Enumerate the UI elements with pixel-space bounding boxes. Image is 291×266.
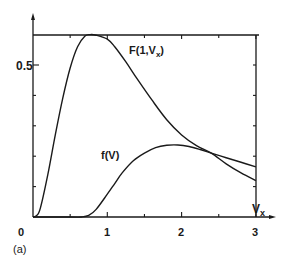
x-axis-label-sub: x <box>260 208 265 218</box>
series-label-f: f(V) <box>101 149 120 161</box>
series-label-F-base: F(1,V <box>129 44 157 56</box>
series-label-F-close: ) <box>160 44 164 56</box>
x-tick-label-0: 0 <box>18 226 24 238</box>
y-axis-arrow-icon <box>31 13 35 20</box>
curve-F-1-vx <box>33 35 256 217</box>
x-axis-arrow-icon <box>269 215 276 219</box>
curve-f-v <box>33 145 256 217</box>
x-tick-label-1: 1 <box>104 226 110 238</box>
x-tick-label-3: 3 <box>252 226 258 238</box>
chart: 0.5 0 1 2 3 Vx F(1,Vx) f(V) (a) <box>0 0 291 266</box>
panel-label: (a) <box>13 243 26 255</box>
x-axis-label-base: V <box>252 202 260 216</box>
y-tick-label-0.5: 0.5 <box>16 59 33 73</box>
x-tick-label-2: 2 <box>178 226 184 238</box>
series-label-F: F(1,Vx) <box>129 44 164 59</box>
x-axis-label: Vx <box>252 202 265 218</box>
